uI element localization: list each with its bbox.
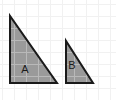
figure-canvas: A B [0,0,116,100]
triangle-a-group[interactable]: A [0,0,116,100]
shapes-layer: A B [0,0,116,100]
triangle-b-label: B [68,59,75,71]
triangle-a-label: A [21,63,29,75]
